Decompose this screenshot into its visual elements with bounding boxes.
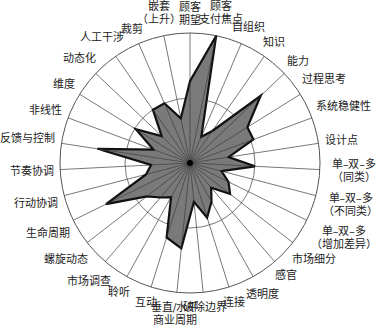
axis-label: 互动 — [135, 295, 157, 308]
axis-label: 透明度 — [246, 287, 279, 300]
axis-label-line: 反馈与控制 — [0, 132, 55, 145]
axis-label: 行动协调 — [14, 196, 58, 209]
axis-label: 反馈与控制 — [0, 132, 55, 145]
axis-label-line: 节奏协调 — [10, 165, 54, 178]
axis-label-line: 单–双–多 — [332, 158, 376, 171]
axis-label: 维度 — [53, 78, 75, 91]
axis-label-line: （不同类） — [323, 205, 378, 218]
axis-label-line: 维度 — [53, 78, 75, 91]
axis-label: 系统稳健性 — [316, 100, 371, 113]
axis-label-line: 嵌套 — [137, 0, 181, 13]
axis-label: 非线性 — [29, 103, 62, 116]
axis-label: 人工干涉 — [80, 30, 124, 43]
axis-label-line: 聆听 — [108, 285, 130, 298]
axis-label: 知识 — [263, 35, 285, 48]
axis-label-line: 生命周期 — [26, 226, 70, 239]
axis-label-line: 动态化 — [63, 51, 96, 64]
axis-label-line: 系统稳健性 — [316, 100, 371, 113]
axis-label: 能力 — [287, 54, 309, 67]
center-dot — [187, 160, 193, 166]
axis-label-line: 顾客 — [199, 0, 243, 13]
axis-label: 顾客期望 — [179, 1, 201, 27]
axis-label: 市场调查 — [67, 274, 111, 287]
axis-label-line: 单–双–多 — [311, 225, 377, 238]
axis-label: 垂直/水平商业周期 — [151, 301, 199, 327]
axis-label: 聆听 — [108, 285, 130, 298]
axis-label-line: 市场细分 — [292, 253, 336, 266]
axis-label-line: 设计点 — [325, 133, 358, 146]
axis-label: 设计点 — [325, 133, 358, 146]
axis-label-line: （同类） — [332, 171, 376, 184]
axis-label-line: 透明度 — [246, 287, 279, 300]
axis-label: 单–双–多（同类） — [332, 158, 376, 184]
axis-label-line: 行动协调 — [14, 196, 58, 209]
axis-label: 单–双–多（增加差异） — [311, 225, 377, 251]
axis-label: 节奏协调 — [10, 165, 54, 178]
axis-label-line: （增加差异） — [311, 238, 377, 251]
axis-label-line: 商业周期 — [151, 314, 199, 327]
axis-label: 螺旋动态 — [44, 253, 88, 266]
axis-label-line: 知识 — [263, 35, 285, 48]
axis-label-line: 垂直/水平 — [151, 301, 199, 314]
axis-label: 单–双–多（不同类） — [323, 192, 378, 218]
axis-label-line: 顾客 — [179, 1, 201, 14]
axis-label: 嵌套（上升） — [137, 0, 181, 26]
axis-label-line: 螺旋动态 — [44, 253, 88, 266]
axis-label: 市场细分 — [292, 253, 336, 266]
axis-label-line: 自组织 — [232, 20, 265, 33]
axis-label-line: 人工干涉 — [80, 30, 124, 43]
axis-label: 自组织 — [232, 20, 265, 33]
axis-label-line: 过程思考 — [302, 73, 346, 86]
axis-label-line: 感官 — [275, 269, 297, 282]
axis-label: 动态化 — [63, 51, 96, 64]
axis-label: 生命周期 — [26, 226, 70, 239]
axis-label-line: 市场调查 — [67, 274, 111, 287]
axis-label: 过程思考 — [302, 73, 346, 86]
axis-label-line: （上升） — [137, 13, 181, 26]
axis-label-line: 期望 — [179, 14, 201, 27]
axis-label-line: 非线性 — [29, 103, 62, 116]
axis-label-line: 互动 — [135, 295, 157, 308]
axis-label-line: 单–双–多 — [323, 192, 378, 205]
axis-label-line: 能力 — [287, 54, 309, 67]
axis-label: 感官 — [275, 269, 297, 282]
